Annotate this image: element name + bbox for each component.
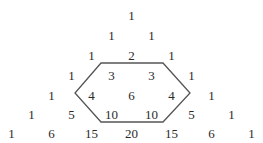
- triangle-entry: 1: [108, 29, 115, 42]
- triangle-entry: 10: [105, 108, 118, 121]
- triangle-entry: 1: [48, 89, 55, 102]
- triangle-entry: 1: [248, 127, 255, 140]
- pascal-triangle-diagram: 111121133114641151010511615201561: [0, 0, 263, 143]
- triangle-entry: 15: [85, 127, 98, 140]
- triangle-entry: 20: [125, 127, 138, 140]
- triangle-entry: 1: [88, 49, 95, 62]
- triangle-entry: 3: [148, 69, 155, 82]
- triangle-entry: 6: [48, 127, 55, 140]
- triangle-entry: 2: [128, 49, 135, 62]
- triangle-entry: 6: [128, 89, 135, 102]
- triangle-entry: 5: [188, 108, 195, 121]
- triangle-entry: 10: [145, 108, 158, 121]
- triangle-entry: 1: [8, 127, 15, 140]
- triangle-entry: 1: [188, 69, 195, 82]
- triangle-entry: 1: [68, 69, 75, 82]
- triangle-entry: 3: [108, 69, 115, 82]
- triangle-entry: 1: [128, 9, 135, 22]
- triangle-entry: 1: [28, 108, 35, 121]
- triangle-entry: 15: [165, 127, 178, 140]
- triangle-entry: 1: [148, 29, 155, 42]
- triangle-entry: 1: [208, 89, 215, 102]
- triangle-entry: 4: [168, 89, 175, 102]
- triangle-entry: 1: [228, 108, 235, 121]
- triangle-entry: 5: [68, 108, 75, 121]
- triangle-entry: 1: [168, 49, 175, 62]
- triangle-entry: 4: [88, 89, 95, 102]
- triangle-entry: 6: [208, 127, 215, 140]
